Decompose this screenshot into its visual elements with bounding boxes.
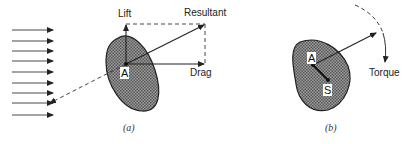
drag-label: Drag bbox=[190, 67, 212, 78]
resultant-label: Resultant bbox=[184, 7, 226, 18]
point-a-label-b: A bbox=[307, 52, 316, 64]
airfoil-body-a bbox=[106, 36, 159, 111]
torque-label: Torque bbox=[369, 67, 400, 78]
point-a-label: A bbox=[120, 67, 129, 79]
point-s-label: S bbox=[323, 84, 332, 96]
caption-b: (b) bbox=[325, 122, 337, 133]
caption-a: (a) bbox=[123, 122, 135, 133]
lift-label: Lift bbox=[118, 8, 131, 19]
flow-arrows bbox=[12, 30, 53, 115]
